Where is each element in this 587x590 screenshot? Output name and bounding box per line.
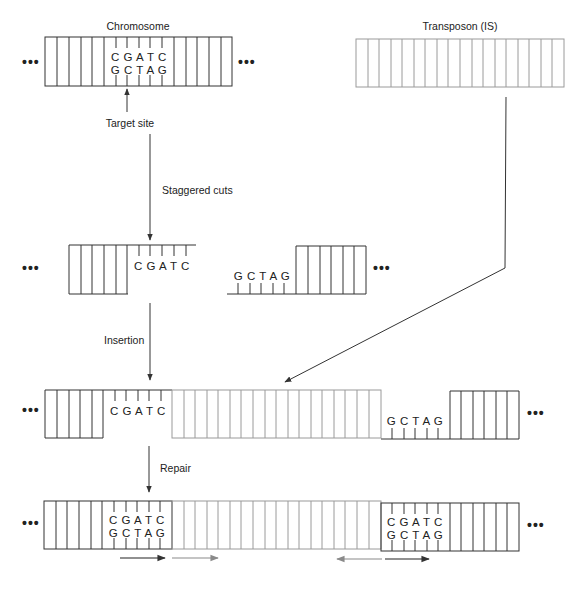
cut-bottom-overhang: G C T A G [234,270,291,282]
inserted-top-overhang: C G A T C [110,405,166,417]
repair-label: Repair [160,462,191,474]
ellipsis-left: ••• [22,402,40,418]
right-repeat-bottom: G C T A G [387,529,444,541]
target-bottom-strand: G C T A G [111,64,168,76]
cut-top-overhang: C G A T C [134,260,190,272]
transposon-base-lines [368,39,552,87]
ellipsis-left: ••• [22,260,40,276]
ellipsis-right: ••• [238,54,256,70]
inserted-bottom-overhang: G C T A G [387,415,444,427]
ellipsis-right: ••• [527,517,545,533]
transposon: Transposon (IS) [356,20,564,87]
chromosome-target: Chromosome ••• ••• C G A T C G C T A G [22,20,256,86]
inserted-intermediate: ••• C G A T C [22,390,545,439]
transposon-insertion-arrow [285,97,506,382]
target-top-strand: C G A T C [111,51,167,63]
transposition-diagram: Chromosome ••• ••• C G A T C G C T A G T… [0,0,587,590]
ellipsis-left: ••• [22,515,40,531]
cut-left-end: ••• C G A T C [22,245,196,294]
chromosome-label: Chromosome [106,20,169,32]
ellipsis-right: ••• [373,260,391,276]
cut-right-end: G C T A G ••• [227,246,391,294]
staggered-cuts-label: Staggered cuts [162,184,233,196]
left-repeat-bottom: G C T A G [109,527,166,539]
target-site-label: Target site [106,117,155,129]
transposon-label: Transposon (IS) [423,20,498,32]
ellipsis-left: ••• [22,54,40,70]
right-repeat-top: C G A T C [387,516,443,528]
insertion-label: Insertion [104,334,144,346]
repaired-product: ••• C G A T C G C T A G [22,501,545,551]
left-repeat-top: C G A T C [109,514,165,526]
ellipsis-right: ••• [527,405,545,421]
